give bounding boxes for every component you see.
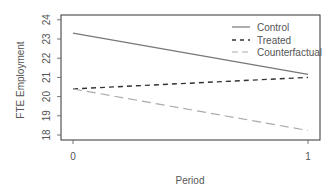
y-tick-label: 22 xyxy=(41,52,52,64)
legend-label-control: Control xyxy=(257,22,289,33)
legend: Control Treated Counterfactual xyxy=(232,22,322,58)
series-treated-line xyxy=(73,77,308,89)
y-tick-label: 18 xyxy=(41,129,52,141)
x-tick-label: 1 xyxy=(305,151,311,162)
y-tick-label: 19 xyxy=(41,110,52,122)
x-axis xyxy=(73,140,308,144)
plot-frame xyxy=(61,15,320,140)
x-axis-title: Period xyxy=(176,175,205,186)
y-tick-label: 23 xyxy=(41,33,52,45)
legend-label-treated: Treated xyxy=(257,35,291,46)
y-tick-label: 20 xyxy=(41,91,52,103)
chart: 18 19 20 21 22 23 24 FTE Employment 0 1 … xyxy=(0,0,336,196)
y-tick-label: 21 xyxy=(41,71,52,83)
y-axis xyxy=(57,20,61,135)
x-tick-label: 0 xyxy=(70,151,76,162)
y-tick-labels: 18 19 20 21 22 23 24 xyxy=(41,14,52,141)
y-axis-title: FTE Employment xyxy=(15,41,26,118)
legend-label-counterfactual: Counterfactual xyxy=(257,47,322,58)
series-counterfactual-line xyxy=(73,89,308,131)
y-tick-label: 24 xyxy=(41,14,52,26)
